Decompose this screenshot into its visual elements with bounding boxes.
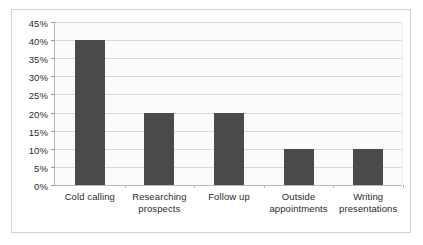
y-axis-tick — [51, 149, 55, 150]
bar — [144, 113, 174, 185]
x-axis-tick — [264, 185, 265, 188]
y-axis-label: 40% — [29, 36, 48, 47]
bar — [214, 113, 244, 185]
y-axis-tick — [51, 113, 55, 114]
x-axis-tick — [333, 185, 334, 188]
y-axis-tick — [51, 22, 55, 23]
bar — [353, 149, 383, 185]
y-axis-tick — [51, 76, 55, 77]
y-axis-label: 15% — [29, 126, 48, 137]
x-axis-tick — [125, 185, 126, 188]
y-axis-label: 35% — [29, 54, 48, 65]
y-axis-tick — [51, 94, 55, 95]
y-axis-tick — [51, 131, 55, 132]
y-axis-label: 20% — [29, 108, 48, 119]
x-axis-tick — [194, 185, 195, 188]
plot-area: 0%5%10%15%20%25%30%35%40%45%Cold calling… — [54, 23, 402, 186]
gridline — [55, 76, 402, 77]
y-axis-tick — [51, 185, 55, 186]
gridline — [55, 40, 402, 41]
y-axis-label: 5% — [34, 162, 48, 173]
chart-frame: 0%5%10%15%20%25%30%35%40%45%Cold calling… — [11, 9, 411, 233]
bar — [75, 40, 105, 185]
x-axis-category-label: Writing presentations — [325, 191, 411, 214]
y-axis-label: 30% — [29, 72, 48, 83]
gridline — [55, 22, 402, 23]
bar — [284, 149, 314, 185]
y-axis-label: 0% — [34, 181, 48, 192]
y-axis-tick — [51, 40, 55, 41]
y-axis-tick — [51, 58, 55, 59]
gridline — [55, 94, 402, 95]
y-axis-label: 10% — [29, 144, 48, 155]
gridline — [55, 185, 402, 186]
gridline — [55, 58, 402, 59]
y-axis-label: 25% — [29, 90, 48, 101]
y-axis-tick — [51, 167, 55, 168]
y-axis-label: 45% — [29, 18, 48, 29]
x-axis-tick — [403, 185, 404, 188]
